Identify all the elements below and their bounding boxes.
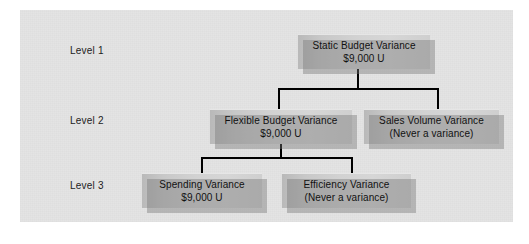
- level-3-label: Level 3: [70, 180, 104, 191]
- diagram-screenshot: Level 1 Level 2 Level 3 Static Budget Va…: [0, 0, 529, 244]
- connector-bus-to-flexible: [278, 88, 280, 110]
- connector-level1-bus: [278, 88, 439, 90]
- node-efficiency-variance: Efficiency Variance (Never a variance): [281, 173, 411, 208]
- connector-bus-to-sales-volume: [437, 88, 439, 110]
- node-value: $9,000 U: [343, 52, 384, 65]
- level-2-label: Level 2: [70, 115, 104, 126]
- diagram-panel: Level 1 Level 2 Level 3 Static Budget Va…: [20, 10, 513, 222]
- node-title: Flexible Budget Variance: [225, 114, 338, 127]
- node-title: Static Budget Variance: [312, 39, 415, 52]
- node-value: (Never a variance): [304, 191, 388, 204]
- node-title: Spending Variance: [159, 178, 244, 191]
- node-value: $9,000 U: [260, 127, 301, 140]
- node-value: (Never a variance): [389, 127, 473, 140]
- node-spending-variance: Spending Variance $9,000 U: [141, 173, 262, 208]
- node-value: $9,000 U: [181, 191, 222, 204]
- node-sales-volume-variance: Sales Volume Variance (Never a variance): [363, 109, 499, 144]
- node-title: Sales Volume Variance: [379, 114, 484, 127]
- node-title: Efficiency Variance: [303, 178, 389, 191]
- connector-level2-bus: [201, 157, 353, 159]
- level-1-label: Level 1: [70, 45, 104, 56]
- node-static-budget-variance: Static Budget Variance $9,000 U: [297, 34, 430, 69]
- node-flexible-budget-variance: Flexible Budget Variance $9,000 U: [209, 109, 352, 144]
- connector-bus-to-efficiency: [351, 157, 353, 174]
- connector-bus-to-spending: [201, 157, 203, 174]
